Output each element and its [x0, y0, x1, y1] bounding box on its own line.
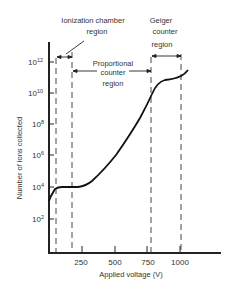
chart: 1012 1010 108 106 104 102 250 500 750 10…	[0, 0, 225, 299]
x-axis-label: Applied voltage (V)	[99, 270, 163, 279]
svg-text:750: 750	[141, 258, 155, 267]
x-tick-labels: 250 500 750 1000	[74, 258, 189, 267]
ionization-label-1: Ionization chamber	[61, 16, 125, 25]
y-axis-label: Number of ions collected	[15, 117, 24, 200]
geiger-label-2: counter	[152, 27, 178, 36]
proportional-label-1: Proportional	[93, 59, 134, 68]
ions-curve	[49, 70, 188, 201]
svg-text:1010: 1010	[28, 88, 43, 98]
geiger-label-3: region	[152, 40, 173, 49]
svg-text:500: 500	[108, 258, 122, 267]
svg-text:250: 250	[74, 258, 88, 267]
proportional-label-3: region	[103, 79, 124, 88]
region-labels: Ionization chamber region Proportional c…	[61, 16, 178, 88]
ionization-label-2: region	[87, 27, 108, 36]
y-tick-labels: 1012 1010 108 106 104 102	[28, 57, 44, 224]
proportional-label-2: counter	[100, 68, 126, 77]
svg-text:106: 106	[32, 150, 44, 160]
svg-text:104: 104	[32, 182, 44, 192]
geiger-label-1: Geiger	[150, 16, 173, 25]
svg-text:1012: 1012	[28, 57, 43, 67]
svg-text:108: 108	[32, 119, 44, 129]
svg-text:1000: 1000	[171, 258, 189, 267]
svg-text:102: 102	[32, 214, 44, 224]
x-ticks	[82, 246, 180, 253]
